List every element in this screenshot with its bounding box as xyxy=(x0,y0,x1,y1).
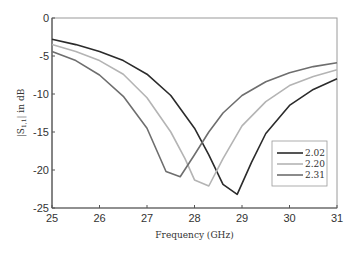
x-tick-label: 29 xyxy=(236,212,248,224)
x-tick-label: 27 xyxy=(141,212,153,224)
legend-label: 2.31 xyxy=(305,170,325,180)
x-tick-label: 26 xyxy=(93,212,105,224)
y-axis-title: |S1,1| in dB xyxy=(16,88,27,137)
s11-frequency-chart: 25262728293031 0-5-10-15-20-25 Frequency… xyxy=(0,0,358,254)
legend-label: 2.02 xyxy=(305,148,325,158)
x-tick-label: 30 xyxy=(283,212,295,224)
y-tick-label: 0 xyxy=(43,12,49,24)
x-tick-label: 28 xyxy=(188,212,200,224)
x-axis-title: Frequency (GHz) xyxy=(155,230,233,240)
y-tick-label: -25 xyxy=(33,202,49,214)
legend: 2.02 2.20 2.31 xyxy=(272,141,327,186)
x-tick-label: 31 xyxy=(331,212,343,224)
y-tick-label: -10 xyxy=(33,88,49,100)
legend-label: 2.20 xyxy=(305,159,325,169)
y-tick-label: -5 xyxy=(39,50,49,62)
y-tick-label: -20 xyxy=(33,164,49,176)
y-tick-label: -15 xyxy=(33,126,49,138)
